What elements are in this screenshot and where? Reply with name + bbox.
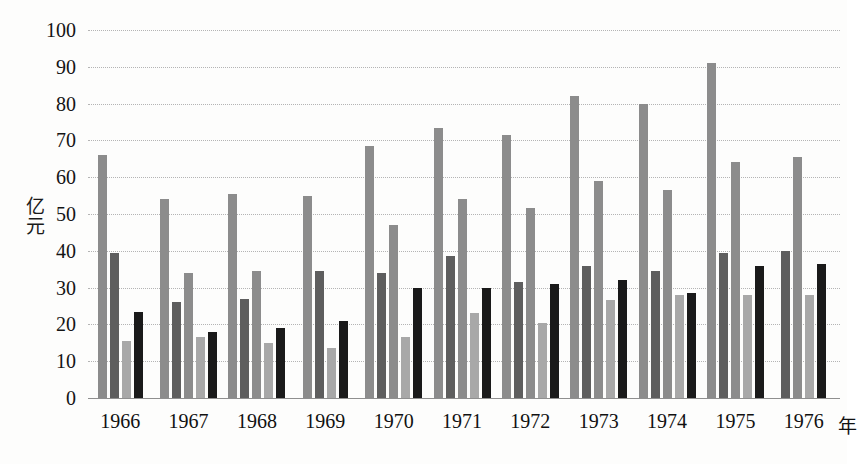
bar-1968-5 [276,328,285,398]
bar-1972-4 [538,323,547,398]
bar-1968-3 [252,271,261,398]
x-axis-ticks: 1966196719681969197019711972197319741975… [88,398,840,448]
bar-1975-1 [707,63,716,398]
bar-1971-4 [470,313,479,398]
bar-1976-1 [781,251,790,398]
bar-1968-4 [264,343,273,398]
bar-1969-3 [327,348,336,398]
y-tick-label-50: 50 [56,203,76,226]
bar-1966-4 [134,312,143,398]
bar-1967-3 [184,273,193,398]
plot-area [88,30,840,398]
x-tick-label-1969: 1969 [305,410,345,433]
bar-1974-3 [663,190,672,398]
y-tick-label-60: 60 [56,166,76,189]
bar-1966-3 [122,341,131,398]
bar-1968-1 [228,194,237,398]
bar-1967-1 [160,199,169,398]
bar-1969-4 [339,321,348,398]
y-tick-label-10: 10 [56,350,76,373]
bar-1970-5 [413,288,422,398]
bar-1974-5 [687,293,696,398]
bar-1971-5 [482,288,491,398]
bar-1971-2 [446,256,455,398]
y-tick-label-30: 30 [56,276,76,299]
bar-1975-4 [743,295,752,398]
bar-1970-4 [401,337,410,398]
y-tick-label-20: 20 [56,313,76,336]
x-tick-label-1975: 1975 [715,410,755,433]
x-tick-label-1973: 1973 [579,410,619,433]
x-tick-label-1974: 1974 [647,410,687,433]
bar-1975-5 [755,266,764,398]
bar-1973-2 [582,266,591,398]
x-tick-label-1970: 1970 [374,410,414,433]
x-tick-label-1966: 1966 [100,410,140,433]
x-tick-label-1968: 1968 [237,410,277,433]
bar-1972-3 [526,208,535,398]
bar-1972-5 [550,284,559,398]
bar-1970-1 [365,146,374,398]
bar-1973-1 [570,96,579,398]
bar-layer [88,30,840,398]
x-tick-label-1967: 1967 [169,410,209,433]
bar-1973-5 [618,280,627,398]
bar-1972-1 [502,135,511,398]
y-tick-label-90: 90 [56,55,76,78]
bar-1966-1 [98,155,107,398]
bar-1973-4 [606,300,615,398]
bar-1976-3 [805,295,814,398]
bar-1973-3 [594,181,603,398]
bar-1974-4 [675,295,684,398]
bar-1966-2 [110,253,119,398]
bar-1967-4 [196,337,205,398]
bar-1969-1 [303,196,312,398]
bar-1974-1 [639,104,648,398]
x-tick-label-1976: 1976 [784,410,824,433]
bar-1976-2 [793,157,802,398]
y-tick-label-80: 80 [56,92,76,115]
bar-1974-2 [651,271,660,398]
bar-1970-2 [377,273,386,398]
y-tick-label-100: 100 [46,19,76,42]
x-tick-label-1972: 1972 [510,410,550,433]
bar-1971-1 [434,128,443,398]
bar-1975-3 [731,162,740,398]
y-tick-label-40: 40 [56,239,76,262]
bar-1967-2 [172,302,181,398]
bar-1970-3 [389,225,398,398]
bar-1968-2 [240,299,249,398]
bar-1971-3 [458,199,467,398]
bar-1969-2 [315,271,324,398]
y-axis-ticks: 0102030405060708090100 [0,0,86,464]
bar-1976-4 [817,264,826,398]
bar-1972-2 [514,282,523,398]
y-tick-label-0: 0 [66,387,76,410]
bar-1967-5 [208,332,217,398]
x-axis-unit-label: 年 [838,411,857,438]
y-tick-label-70: 70 [56,129,76,152]
bar-1975-2 [719,253,728,398]
x-tick-label-1971: 1971 [442,410,482,433]
